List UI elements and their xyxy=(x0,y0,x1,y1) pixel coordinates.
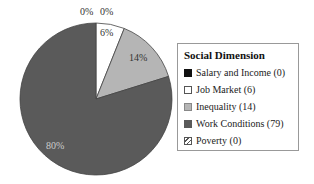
swatch-poverty-icon xyxy=(184,137,192,145)
legend-item-inequality: Inequality (14) xyxy=(184,98,298,115)
swatch-inequality-icon xyxy=(184,103,192,111)
slice-label-inequality: 14% xyxy=(129,52,147,63)
slice-label-poverty: 0% xyxy=(100,6,113,17)
slice-label-salary: 0% xyxy=(80,6,93,17)
legend-item-job-market: Job Market (6) xyxy=(184,81,298,98)
swatch-salary-icon xyxy=(184,69,192,77)
legend: Social Dimension Salary and Income (0) J… xyxy=(177,43,299,151)
legend-item-poverty: Poverty (0) xyxy=(184,132,298,149)
swatch-job-market-icon xyxy=(184,86,192,94)
swatch-work-conditions-icon xyxy=(184,120,192,128)
slice-label-job-market: 6% xyxy=(100,27,113,38)
legend-item-salary: Salary and Income (0) xyxy=(184,64,298,81)
slice-label-work-conditions: 80% xyxy=(46,140,64,151)
legend-item-work-conditions: Work Conditions (79) xyxy=(184,115,298,132)
legend-title: Social Dimension xyxy=(184,49,298,61)
